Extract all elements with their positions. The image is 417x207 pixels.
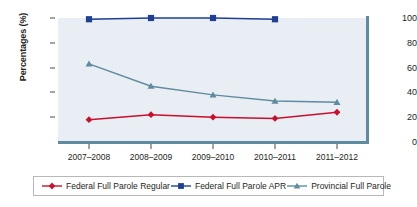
legend-label: Provincial Full Parole bbox=[311, 181, 391, 191]
y-axis-tick-label: 60 bbox=[371, 63, 417, 73]
y-axis-tick-mark bbox=[50, 18, 55, 19]
plot-right-axis-line bbox=[366, 16, 369, 144]
x-axis-tick-mark bbox=[213, 144, 214, 149]
y-axis-tick-mark bbox=[50, 42, 55, 43]
chart-legend: Federal Full Parole Regular Federal Full… bbox=[33, 176, 384, 196]
legend-item-federal-full-parole-apr: Federal Full Parole APR bbox=[170, 181, 286, 191]
y-axis-title: Percentages (%) bbox=[18, 0, 28, 102]
legend-item-federal-full-parole-regular: Federal Full Parole Regular bbox=[41, 181, 170, 191]
x-axis-tick-label: 2008–2009 bbox=[116, 152, 186, 162]
x-axis-tick-label: 2007–2008 bbox=[54, 152, 124, 162]
x-axis-line bbox=[58, 141, 369, 144]
x-axis-tick-mark bbox=[337, 144, 338, 149]
legend-label: Federal Full Parole APR bbox=[195, 181, 286, 191]
legend-marker-square-icon bbox=[170, 181, 192, 191]
y-axis-tick-mark bbox=[50, 67, 55, 68]
legend-marker-triangle-icon bbox=[286, 181, 308, 191]
x-axis-tick-label: 2011–2012 bbox=[302, 152, 372, 162]
y-axis-tick-mark bbox=[50, 92, 55, 93]
y-axis-tick-label: 0 bbox=[371, 137, 417, 147]
x-axis-tick-mark bbox=[151, 144, 152, 149]
legend-item-provincial-full-parole: Provincial Full Parole bbox=[286, 181, 391, 191]
y-axis-tick-label: 100 bbox=[371, 13, 417, 23]
line-chart-figure: Percentages (%) 020406080100 2007–200820… bbox=[0, 0, 417, 207]
y-axis-tick-label: 20 bbox=[371, 112, 417, 122]
legend-marker-diamond-icon bbox=[41, 181, 63, 191]
x-axis-tick-mark bbox=[89, 144, 90, 149]
x-axis-tick-label: 2009–2010 bbox=[178, 152, 248, 162]
x-axis-tick-mark bbox=[275, 144, 276, 149]
y-axis-tick-label: 40 bbox=[371, 87, 417, 97]
x-axis-tick-label: 2010–2011 bbox=[240, 152, 310, 162]
plot-area bbox=[58, 18, 368, 142]
y-axis-tick-label: 80 bbox=[371, 38, 417, 48]
legend-label: Federal Full Parole Regular bbox=[66, 181, 170, 191]
y-axis-tick-mark bbox=[50, 117, 55, 118]
